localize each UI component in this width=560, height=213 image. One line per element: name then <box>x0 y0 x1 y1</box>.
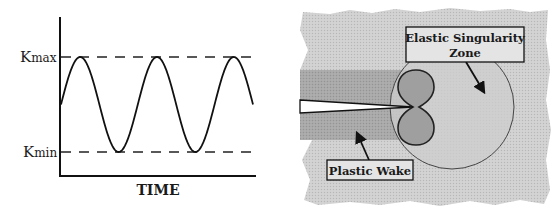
sine-wave <box>61 57 253 152</box>
figure-canvas: Kmax Kmin TIME Elastic Singularity Zone … <box>0 0 560 213</box>
load-cycle-chart: Kmax Kmin TIME <box>20 17 256 198</box>
plastic-wake-label: Plastic Wake <box>329 164 411 178</box>
crack-tip-diagram: Elastic Singularity Zone Plastic Wake <box>300 8 551 206</box>
x-axis-label: TIME <box>136 182 179 198</box>
kmax-label: Kmax <box>20 48 57 66</box>
kmin-label: Kmin <box>23 143 57 161</box>
elastic-zone-label-line1: Elastic Singularity <box>405 31 525 45</box>
elastic-zone-label-line2: Zone <box>449 46 481 60</box>
